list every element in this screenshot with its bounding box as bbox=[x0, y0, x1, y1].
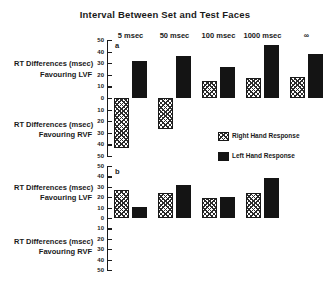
y-axis-tick bbox=[108, 86, 112, 87]
figure-title: Interval Between Set and Test Faces bbox=[0, 9, 330, 20]
legend-label-right-hand: Right Hand Response bbox=[232, 131, 300, 141]
y-axis-tick bbox=[108, 197, 112, 198]
y-axis-tick bbox=[108, 121, 112, 122]
bar-left-hand bbox=[176, 185, 191, 218]
column-header-5: ∞ bbox=[277, 31, 330, 40]
y-axis-tick-label: 0 bbox=[91, 215, 104, 221]
axis-caption-line1: RT Differences (msec) bbox=[14, 237, 93, 246]
axis-caption-line1: RT Differences (msec) bbox=[14, 120, 93, 129]
axis-caption-line1: RT Differences (msec) bbox=[14, 59, 93, 68]
axis-caption-a-rvf: RT Differences (msec) Favouring RVF bbox=[14, 120, 92, 141]
y-axis-tick bbox=[108, 133, 112, 134]
y-axis-tick-label: 50 bbox=[91, 163, 104, 169]
bar-right-hand bbox=[246, 78, 261, 98]
y-axis-tick bbox=[108, 63, 112, 64]
bar-left-hand bbox=[176, 56, 191, 98]
y-axis-tick-label: 0 bbox=[91, 95, 104, 101]
y-axis-tick bbox=[108, 176, 112, 177]
y-axis-tick bbox=[108, 270, 112, 271]
y-axis-tick-label: 50 bbox=[91, 267, 104, 273]
bar-left-hand bbox=[220, 67, 235, 98]
y-axis-tick bbox=[108, 249, 112, 250]
bar-right-hand bbox=[246, 193, 261, 218]
legend-swatch-right-hand bbox=[218, 132, 229, 141]
y-axis-tick bbox=[108, 187, 112, 188]
y-axis-tick bbox=[108, 228, 112, 229]
bar-right-hand bbox=[290, 77, 305, 98]
bar-right-hand bbox=[202, 81, 217, 98]
axis-caption-line2: Favouring RVF bbox=[14, 247, 92, 258]
y-axis-tick bbox=[108, 110, 112, 111]
y-axis-tick bbox=[108, 166, 112, 167]
legend-item-right-hand: Right Hand Response bbox=[218, 131, 323, 142]
y-axis-tick bbox=[108, 208, 112, 209]
bar-left-hand bbox=[264, 45, 279, 98]
axis-caption-line2: Favouring LVF bbox=[14, 193, 92, 204]
y-axis-tick-label: 20 bbox=[91, 72, 104, 78]
bar-left-hand bbox=[264, 178, 279, 218]
y-axis-tick bbox=[108, 156, 112, 157]
axis-caption-line2: Favouring LVF bbox=[14, 70, 92, 81]
bar-right-hand bbox=[158, 193, 173, 218]
bar-right-hand bbox=[202, 198, 217, 218]
bar-left-hand bbox=[308, 54, 323, 98]
axis-caption-line1: RT Differences (msec) bbox=[14, 183, 93, 192]
axis-caption-a-lvf: RT Differences (msec) Favouring LVF bbox=[14, 59, 92, 80]
y-axis-tick-label: 40 bbox=[91, 173, 104, 179]
figure-root: Interval Between Set and Test Faces 5 ms… bbox=[0, 0, 330, 296]
bar-right-hand bbox=[114, 98, 129, 148]
axis-caption-b-rvf: RT Differences (msec) Favouring RVF bbox=[14, 237, 92, 258]
y-axis-tick bbox=[108, 239, 112, 240]
y-axis-tick-label: 50 bbox=[91, 37, 104, 43]
panel-b-letter: b bbox=[115, 167, 120, 176]
y-axis-tick-label: 30 bbox=[91, 246, 104, 252]
y-axis-tick bbox=[108, 40, 112, 41]
y-axis-tick bbox=[108, 98, 112, 99]
legend-label-left-hand: Left Hand Response bbox=[232, 151, 295, 161]
bar-right-hand bbox=[158, 98, 173, 129]
y-axis-tick-label: 10 bbox=[91, 107, 104, 113]
bar-left-hand bbox=[132, 207, 147, 218]
axis-caption-line2: Favouring RVF bbox=[14, 130, 92, 141]
y-axis-tick bbox=[108, 218, 112, 219]
y-axis-tick-label: 40 bbox=[91, 49, 104, 55]
y-axis-tick-label: 20 bbox=[91, 194, 104, 200]
y-axis-tick-label: 10 bbox=[91, 205, 104, 211]
legend-swatch-left-hand bbox=[218, 152, 229, 161]
bar-left-hand bbox=[132, 61, 147, 98]
legend-item-left-hand: Left Hand Response bbox=[218, 151, 323, 162]
bar-left-hand bbox=[220, 197, 235, 218]
y-axis-tick-label: 10 bbox=[91, 83, 104, 89]
y-axis-tick-label: 40 bbox=[91, 141, 104, 147]
y-axis-tick bbox=[108, 75, 112, 76]
y-axis-tick-label: 50 bbox=[91, 153, 104, 159]
bar-right-hand bbox=[114, 190, 129, 218]
y-axis-tick-label: 10 bbox=[91, 225, 104, 231]
y-axis-tick bbox=[108, 52, 112, 53]
y-axis-tick bbox=[108, 260, 112, 261]
y-axis-tick-label: 40 bbox=[91, 257, 104, 263]
legend: Right Hand ResponseLeft Hand Response bbox=[218, 131, 323, 165]
panel-a-letter: a bbox=[115, 41, 119, 50]
y-axis-tick-label: 30 bbox=[91, 130, 104, 136]
axis-caption-b-lvf: RT Differences (msec) Favouring LVF bbox=[14, 183, 92, 204]
y-axis-tick bbox=[108, 144, 112, 145]
